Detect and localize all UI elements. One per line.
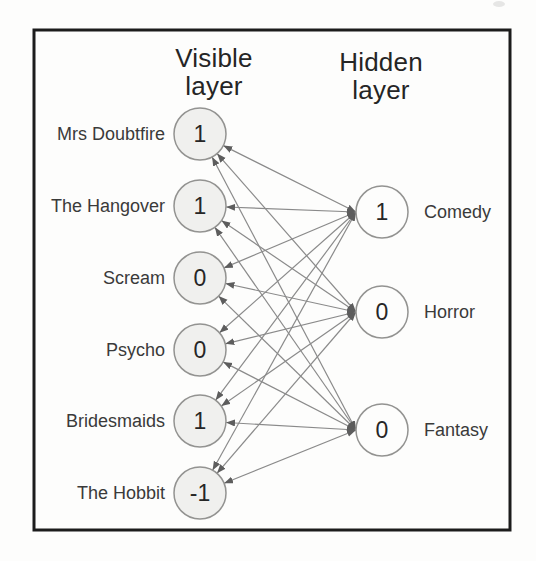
rbm-figure: Visible layer Hidden layer Mrs Doubtfire… <box>0 0 536 561</box>
hidden-layer-title: Hidden layer <box>326 48 436 104</box>
hidden-node-value: 0 <box>356 417 408 443</box>
visible-node-value: 1 <box>174 408 226 434</box>
hidden-node-label: Comedy <box>424 201 491 223</box>
visible-node-label: Psycho <box>15 339 165 361</box>
hidden-node-value: 0 <box>356 299 408 325</box>
hidden-node-label: Fantasy <box>424 419 488 441</box>
hidden-node-value: 1 <box>356 199 408 225</box>
visible-node-value: 0 <box>174 337 226 363</box>
visible-node-label: The Hobbit <box>15 482 165 504</box>
visible-node-value: 1 <box>174 121 226 147</box>
visible-node-value: 0 <box>174 265 226 291</box>
visible-node-label: Mrs Doubtfire <box>15 123 165 145</box>
visible-node-label: Bridesmaids <box>15 410 165 432</box>
visible-node-label: The Hangover <box>15 195 165 217</box>
scan-artifact <box>493 1 505 7</box>
visible-node-label: Scream <box>15 267 165 289</box>
visible-node-value: -1 <box>174 480 226 506</box>
hidden-node-label: Horror <box>424 301 475 323</box>
visible-layer-title: Visible layer <box>159 44 269 100</box>
visible-node-value: 1 <box>174 193 226 219</box>
